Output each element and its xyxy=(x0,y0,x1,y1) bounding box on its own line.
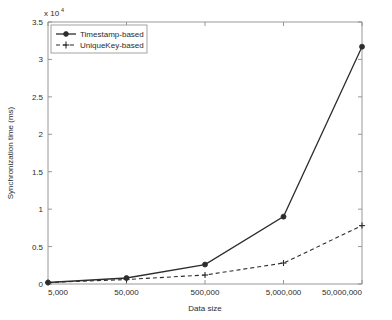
y-tick-label: 3.5 xyxy=(32,18,44,27)
y-tick-label: 0.5 xyxy=(32,243,44,252)
chart-canvas: 00.511.522.533.5 5,00050,000500,0005,000… xyxy=(0,0,392,320)
data-series-layer xyxy=(45,44,365,285)
x-axis-ticks: 5,00050,000500,0005,000,00050,000,000 xyxy=(48,22,363,297)
axes-box xyxy=(48,22,362,284)
data-point-marker xyxy=(45,280,51,286)
legend-label-uniquekey-based: UniqueKey-based xyxy=(80,41,144,50)
data-point-marker xyxy=(360,44,365,49)
chart-legend[interactable]: Timestamp-based UniqueKey-based xyxy=(51,25,147,53)
x-tick-label: 5,000,000 xyxy=(266,288,302,297)
x-tick-label: 50,000 xyxy=(114,288,139,297)
series-line xyxy=(48,47,362,283)
data-point-marker xyxy=(202,272,208,278)
x-tick-label: 5,000 xyxy=(48,288,69,297)
x-tick-label: 500,000 xyxy=(191,288,220,297)
y-axis-exponent: x 10 4 xyxy=(44,7,64,18)
series-uniquekey-based xyxy=(45,223,365,286)
series-timestamp-based xyxy=(46,44,365,285)
data-point-marker xyxy=(359,223,365,229)
y-axis-exponent-power: 4 xyxy=(61,7,64,13)
y-tick-label: 2 xyxy=(39,130,44,139)
y-tick-label: 2.5 xyxy=(32,93,44,102)
data-point-marker xyxy=(281,214,286,219)
data-point-marker xyxy=(203,262,208,267)
y-tick-label: 1.5 xyxy=(32,168,44,177)
y-tick-label: 1 xyxy=(39,205,44,214)
x-tick-label: 50,000,000 xyxy=(322,288,363,297)
axes-frame xyxy=(48,22,362,284)
x-axis-title: Data size xyxy=(188,304,222,313)
y-tick-label: 3 xyxy=(39,55,44,64)
y-axis-title: Synchronization time (ms) xyxy=(6,106,15,199)
legend-label-timestamp-based: Timestamp-based xyxy=(80,30,144,39)
chart-figure: 00.511.522.533.5 5,00050,000500,0005,000… xyxy=(0,0,392,320)
data-point-marker xyxy=(281,260,287,266)
y-tick-label: 0 xyxy=(39,280,44,289)
y-axis-exponent-base: x 10 xyxy=(44,9,60,18)
legend-circle-marker-icon xyxy=(64,32,69,37)
